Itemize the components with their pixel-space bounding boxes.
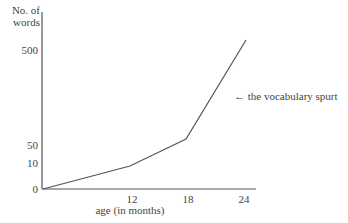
y-axis-title: No. of words (0, 4, 40, 28)
vocabulary-growth-chart: No. of words 500 50 10 0 12 18 24 age (i… (0, 0, 348, 223)
y-tick-500: 500 (0, 44, 38, 56)
y-tick-0: 0 (0, 183, 38, 195)
y-tick-50: 50 (0, 139, 38, 151)
y-axis-title-line2: words (0, 16, 40, 28)
x-axis-title: age (in months) (80, 204, 180, 216)
y-axis-title-line1: No. of (0, 4, 40, 16)
x-tick-24: 24 (234, 193, 254, 205)
y-tick-10: 10 (0, 157, 38, 169)
plot-area (0, 0, 348, 223)
vocabulary-line (43, 40, 246, 189)
x-tick-18: 18 (178, 193, 198, 205)
vocabulary-spurt-annotation: ← the vocabulary spurt (234, 90, 338, 102)
